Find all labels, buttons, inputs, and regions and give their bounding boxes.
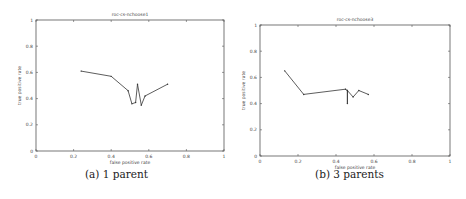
roc-line: [285, 71, 369, 104]
y-tick-label: 0.8: [250, 49, 257, 54]
data-point: [284, 70, 285, 71]
data-point: [131, 103, 132, 104]
chart-title: roc-cs-nchoose1: [112, 12, 149, 17]
x-tick-label: 0.6: [145, 154, 152, 159]
y-tick-label: 0.6: [250, 75, 257, 80]
data-point: [135, 102, 136, 103]
data-point: [368, 94, 369, 95]
y-tick-label: 0.4: [250, 101, 257, 106]
x-tick-label: 0: [35, 154, 38, 159]
data-point: [345, 88, 346, 89]
x-tick-label: 1: [223, 154, 226, 159]
chart-panel-a: roc-cs-nchoose100.20.40.60.8100.20.40.60…: [0, 0, 233, 199]
y-tick-label: 0.2: [250, 127, 257, 132]
y-tick-label: 0.4: [26, 96, 33, 101]
y-tick-label: 0.2: [26, 122, 33, 127]
data-point: [111, 76, 112, 77]
y-tick-label: 0.6: [26, 70, 33, 75]
caption-a: (a) 1 parent: [0, 168, 233, 180]
x-tick-label: 0.6: [370, 159, 377, 164]
data-point: [352, 96, 353, 97]
axes-frame: [36, 20, 224, 151]
x-tick-label: 0.4: [108, 154, 115, 159]
x-tick-label: 0: [259, 159, 262, 164]
data-point: [303, 94, 304, 95]
data-point: [167, 83, 168, 84]
data-point: [144, 95, 145, 96]
x-axis-label: false positive rate: [110, 160, 151, 165]
x-tick-label: 0.8: [408, 159, 415, 164]
data-point: [137, 83, 138, 84]
x-tick-label: 0.2: [294, 159, 301, 164]
data-point: [80, 70, 81, 71]
chart-title: roc-cs-nchoose3: [337, 17, 374, 22]
chart-panel-b: roc-cs-nchoose300.20.40.60.8100.20.40.60…: [233, 0, 466, 199]
roc-line: [81, 71, 168, 105]
y-tick-label: 1: [254, 23, 257, 28]
axes-frame: [260, 25, 450, 156]
y-tick-label: 1: [30, 18, 33, 23]
data-point: [347, 90, 348, 91]
y-axis-label: true positive rate: [17, 66, 22, 105]
plot-area: roc-cs-nchoose100.20.40.60.8100.20.40.60…: [17, 12, 226, 165]
plot-area: roc-cs-nchoose300.20.40.60.8100.20.40.60…: [241, 17, 452, 170]
data-point: [358, 90, 359, 91]
data-point: [141, 104, 142, 105]
x-tick-label: 0.8: [183, 154, 190, 159]
y-tick-label: 0: [30, 149, 33, 154]
y-axis-label: true positive rate: [241, 71, 246, 110]
y-tick-label: 0.8: [26, 44, 33, 49]
caption-b: (b) 3 parents: [233, 168, 466, 180]
data-point: [347, 103, 348, 104]
data-point: [127, 90, 128, 91]
x-tick-label: 0.4: [332, 159, 339, 164]
x-tick-label: 0.2: [70, 154, 77, 159]
x-tick-label: 1: [449, 159, 452, 164]
y-tick-label: 0: [254, 154, 257, 159]
